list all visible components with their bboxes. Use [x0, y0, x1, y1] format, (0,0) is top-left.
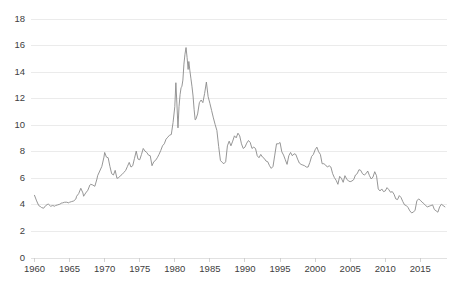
x-tick-label: 2005	[340, 263, 361, 274]
gridlines-group	[31, 19, 447, 258]
y-tick-label: 0	[20, 252, 25, 263]
x-tick-labels-group: 1960196519701975198019851990199520002005…	[24, 263, 431, 274]
x-tick-label: 1990	[234, 263, 255, 274]
y-tick-label: 18	[14, 13, 25, 24]
y-tick-label: 2	[20, 225, 25, 236]
x-tick-label: 1995	[269, 263, 290, 274]
x-tick-label: 2000	[305, 263, 326, 274]
y-tick-label: 8	[20, 145, 25, 156]
x-tick-label: 1985	[199, 263, 220, 274]
axis-group	[35, 258, 421, 262]
x-tick-label: 1980	[164, 263, 185, 274]
x-tick-label: 1975	[129, 263, 150, 274]
x-tick-label: 1960	[24, 263, 45, 274]
y-tick-label: 12	[14, 92, 25, 103]
y-tick-label: 10	[14, 119, 25, 130]
line-chart: 024681012141618 196019651970197519801985…	[0, 0, 459, 293]
y-tick-labels-group: 024681012141618	[14, 13, 25, 263]
y-tick-label: 6	[20, 172, 25, 183]
y-tick-label: 16	[14, 39, 25, 50]
x-tick-label: 1965	[59, 263, 80, 274]
x-tick-label: 1970	[94, 263, 115, 274]
x-tick-label: 2015	[410, 263, 431, 274]
y-tick-label: 14	[14, 66, 25, 77]
chart-container: 024681012141618 196019651970197519801985…	[0, 0, 459, 293]
x-tick-label: 2010	[375, 263, 396, 274]
y-tick-label: 4	[20, 198, 25, 209]
